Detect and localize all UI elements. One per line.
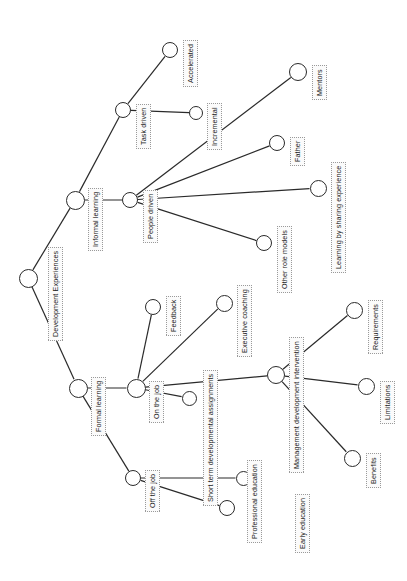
mind-map-diagram: Development ExperiencesInformal learning… [0,0,407,581]
node-label-feedback: Feedback [166,296,181,336]
node-root[interactable] [19,269,38,288]
node-label-profedu: Professional education [247,460,262,543]
node-task[interactable] [115,102,131,118]
node-father[interactable] [269,135,285,151]
node-label-informal: Informal learning [88,188,103,251]
node-onjob[interactable] [127,379,146,398]
edge-people-sharing [138,189,310,200]
node-sharing[interactable] [310,180,327,197]
edge-onjob-feedback [138,315,151,379]
node-offjob[interactable] [125,470,141,486]
node-accel[interactable] [162,42,178,58]
node-increm[interactable] [189,106,203,120]
node-label-shortterm: Short term developmental assignments [203,370,218,506]
node-label-execcoach: Executive coaching [237,285,252,357]
node-label-accel: Accelerated [183,40,198,87]
node-label-require: Requirements [368,300,383,354]
node-people[interactable] [122,192,138,208]
node-limits[interactable] [358,378,375,395]
node-earlyedu[interactable] [219,500,235,516]
node-label-root: Development Experiences [48,247,63,341]
node-require[interactable] [346,302,363,319]
node-label-offjob: Off the job [145,470,160,512]
node-label-formal: Formal learning [91,377,106,436]
node-benefits[interactable] [344,450,361,467]
node-label-task: Task driven [136,104,151,149]
node-shortterm[interactable] [182,391,197,406]
node-mgmtdev[interactable] [267,366,285,384]
node-label-people: People driven [143,190,158,243]
node-informal[interactable] [66,191,85,210]
node-label-benefits: Benefits [366,453,381,488]
node-execcoach[interactable] [216,295,233,312]
node-label-father: Father [290,137,305,166]
node-feedback[interactable] [145,299,161,315]
node-label-increm: Incremental [207,103,222,150]
edge-task-accel [128,56,165,103]
node-label-onjob: On the job [149,381,164,423]
edge-informal-task [79,117,119,192]
node-rolemodels[interactable] [256,235,272,251]
node-label-earlyedu: Early education [295,494,310,553]
node-label-mentors: Mentors [312,65,327,100]
node-label-limits: Limitations [380,381,395,424]
node-label-sharing: Learning by sharing experience [331,162,346,273]
node-label-mgmtdev: Management development intervention [289,337,304,473]
node-mentors[interactable] [289,63,307,81]
node-label-rolemodels: Other role models [277,226,292,293]
node-formal[interactable] [69,379,88,398]
